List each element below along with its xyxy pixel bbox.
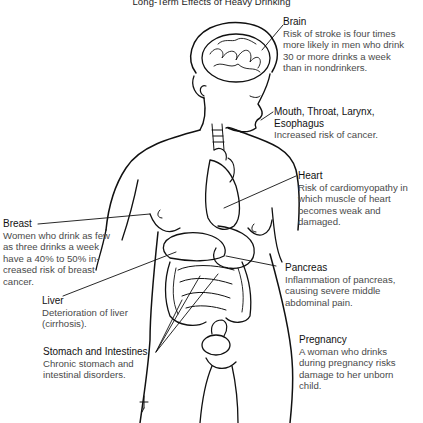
annotation-text: Women who drink as few	[3, 230, 143, 242]
annotation-text: Increased risk of cancer.	[274, 129, 423, 141]
annotation-text: (cirrhosis).	[42, 318, 152, 330]
annotation-text: Risk of stroke is four times	[283, 28, 423, 40]
small-intestine	[178, 266, 234, 311]
annotation-heart: Heart Risk of cardiomyopathy in which mu…	[298, 170, 423, 228]
annotation-stomach-intestines: Stomach and Intestines Chronic stomach a…	[43, 346, 168, 381]
annotation-heading: Mouth, Throat, Larynx, Esophagus	[274, 106, 423, 129]
intestine-inner	[173, 268, 243, 314]
annotation-text: as three drinks a week	[3, 241, 143, 253]
annotation-mouth: Mouth, Throat, Larynx, Esophagus Increas…	[274, 106, 423, 141]
annotation-text: Deterioration of liver	[42, 307, 152, 319]
annotation-heading: Heart	[298, 170, 423, 182]
heart-leader-line	[224, 176, 296, 208]
annotation-text: during pregnancy risks	[299, 357, 423, 369]
annotation-text: Chronic stomach and	[43, 358, 168, 370]
annotation-text: A woman who drinks	[299, 346, 423, 358]
annotation-text: child.	[299, 380, 423, 392]
right-nipple	[252, 224, 256, 232]
annotation-pregnancy: Pregnancy A woman who drinks during preg…	[299, 334, 423, 392]
annotation-brain: Brain Risk of stroke is four times more …	[283, 16, 423, 74]
annotation-text: which muscle of heart	[298, 193, 423, 205]
annotation-text: have a 40% to 50% in-	[3, 253, 143, 265]
annotation-liver: Liver Deterioration of liver (cirrhosis)…	[42, 295, 152, 330]
annotation-text: Inflammation of pancreas,	[285, 274, 423, 286]
bladder-icon	[202, 335, 230, 355]
annotation-heading: Pregnancy	[299, 334, 423, 346]
annotation-text: causing severe middle	[285, 285, 423, 297]
left-breast	[150, 214, 180, 232]
crotch	[206, 358, 236, 368]
annotation-text: intestinal disorders.	[43, 369, 168, 381]
annotation-breast: Breast Women who drink as few as three d…	[3, 218, 143, 288]
annotation-text: becomes weak and	[298, 205, 423, 217]
neck-left	[200, 98, 205, 130]
annotation-text: damaged.	[298, 216, 423, 228]
brain-folds	[210, 38, 260, 72]
trachea	[212, 124, 224, 150]
annotation-pancreas: Pancreas Inflammation of pancreas, causi…	[285, 262, 423, 308]
stomach-icon	[214, 226, 255, 268]
right-arm-inner	[272, 208, 282, 262]
annotation-text: than in nondrinkers.	[283, 62, 423, 74]
annotation-text: creased risk of breast	[3, 264, 143, 276]
annotation-text: damage to her unborn	[299, 369, 423, 381]
brain-icon	[202, 34, 270, 82]
left-shoulder	[106, 130, 200, 230]
right-leg-inner	[232, 366, 238, 423]
annotation-text: cancer.	[3, 276, 143, 288]
right-shoulder	[236, 130, 299, 230]
ear-icon	[200, 86, 206, 96]
face-profile	[228, 74, 270, 132]
liver-icon	[163, 233, 225, 261]
annotation-text: more likely in men who drink	[283, 39, 423, 51]
eye	[250, 96, 260, 98]
brain-leader-line	[262, 25, 283, 50]
pancreas-leader-line	[226, 256, 276, 266]
annotation-text: abdominal pain.	[285, 297, 423, 309]
annotation-text: 30 or more drinks a week	[283, 51, 423, 63]
annotation-heading: Liver	[42, 295, 152, 307]
uterus-icon	[211, 320, 226, 336]
large-intestine	[166, 262, 251, 325]
annotation-heading: Stomach and Intestines	[43, 346, 168, 358]
annotation-text: Risk of cardiomyopathy in	[298, 182, 423, 194]
annotation-heading: Brain	[283, 16, 423, 28]
annotation-heading: Breast	[3, 218, 143, 230]
left-leg-inner	[200, 366, 212, 423]
annotation-heading: Pancreas	[285, 262, 423, 274]
left-nipple	[158, 210, 162, 218]
